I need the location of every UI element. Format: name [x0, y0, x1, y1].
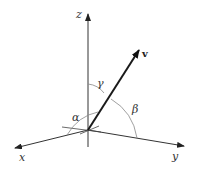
alpha-label: α	[72, 111, 80, 124]
x-axis	[15, 130, 88, 148]
x-axis-label: x	[19, 151, 26, 164]
beta-label: β	[131, 103, 138, 116]
direction-angles-diagram: z x y v α β γ	[0, 0, 197, 173]
z-axis-label: z	[75, 8, 82, 21]
vector-v	[88, 50, 139, 130]
vector-label: v	[141, 48, 149, 59]
gamma-label: γ	[97, 77, 104, 90]
y-axis-label: y	[171, 150, 179, 163]
